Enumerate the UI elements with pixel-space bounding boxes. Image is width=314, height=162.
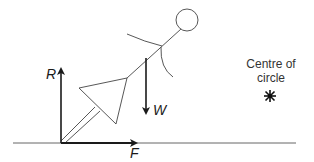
reaction-label: R [46,66,56,82]
weight-label: W [153,102,168,118]
skater-body-triangle [79,78,127,124]
skater-legs [61,107,100,143]
skater-torso [127,29,181,78]
skater-arm-right [161,47,173,77]
centre-label-line2: circle [257,71,285,85]
centre-label-line1: Centre of [246,57,296,71]
skater-arm-left [127,34,162,46]
friction-label: F [130,145,140,161]
skater-head [176,9,198,31]
centre-star-icon [264,90,276,102]
force-diagram: R F W Centre of circle [0,0,314,162]
